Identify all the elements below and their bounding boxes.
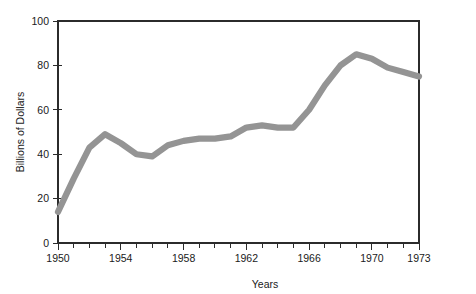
line-chart: 020406080100 195019541958196219661970197…: [0, 0, 476, 294]
y-axis-tick-labels: 020406080100: [31, 15, 49, 249]
x-axis-ticks: [58, 244, 419, 250]
y-tick-label: 100: [31, 15, 49, 27]
x-tick-label: 1950: [46, 252, 70, 264]
y-tick-label: 20: [37, 192, 49, 204]
x-tick-label: 1962: [235, 252, 259, 264]
y-tick-label: 80: [37, 59, 49, 71]
x-tick-label: 1958: [172, 252, 196, 264]
x-axis-tick-labels: 1950195419581962196619701973: [46, 252, 431, 264]
data-line: [58, 54, 419, 212]
x-tick-label: 1970: [360, 252, 384, 264]
y-tick-label: 0: [43, 237, 49, 249]
x-axis-title: Years: [252, 278, 278, 290]
chart-page: 020406080100 195019541958196219661970197…: [0, 0, 476, 294]
x-tick-label: 1966: [297, 252, 321, 264]
data-series-line: [58, 54, 419, 212]
y-tick-label: 40: [37, 148, 49, 160]
x-tick-label: 1973: [407, 252, 431, 264]
y-tick-label: 60: [37, 104, 49, 116]
x-tick-label: 1954: [109, 252, 133, 264]
y-axis-title: Billions of Dollars: [14, 92, 26, 173]
